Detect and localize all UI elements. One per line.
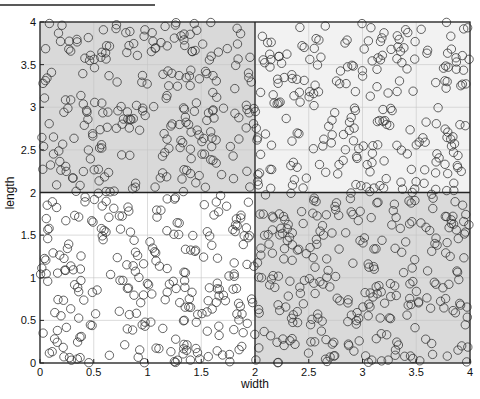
x-tick-label: 1.5 — [194, 366, 209, 378]
y-tick-label: 1.5 — [21, 229, 36, 241]
x-tick-label: 4 — [467, 366, 473, 378]
y-tick-label: 0 — [30, 357, 36, 369]
x-tick-label: 0 — [37, 366, 43, 378]
x-tick-label: 3 — [359, 366, 365, 378]
x-tick-label: 0.5 — [86, 366, 101, 378]
scatter-chart: 00.511.522.533.54 00.511.522.533.54 widt… — [0, 0, 480, 399]
y-tick-label: 4 — [30, 16, 36, 28]
x-axis-label: width — [240, 377, 269, 391]
x-tick-label: 1 — [144, 366, 150, 378]
y-tick-label: 2 — [30, 187, 36, 199]
x-tick-label: 3.5 — [409, 366, 424, 378]
y-tick-label: 1 — [30, 272, 36, 284]
y-tick-label: 3.5 — [21, 59, 36, 71]
y-tick-label: 0.5 — [21, 314, 36, 326]
y-tick-label: 2.5 — [21, 144, 36, 156]
x-tick-label: 2.5 — [301, 366, 316, 378]
y-axis-label: length — [3, 177, 17, 210]
y-tick-label: 3 — [30, 101, 36, 113]
